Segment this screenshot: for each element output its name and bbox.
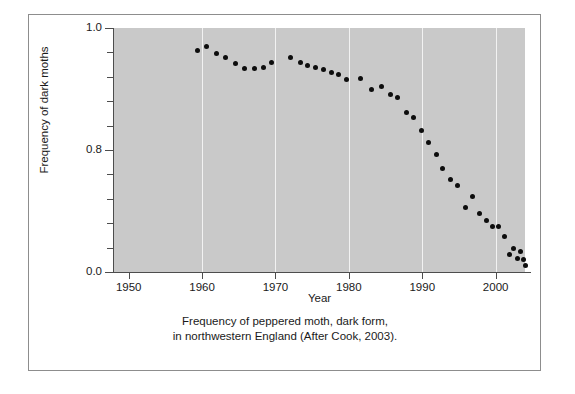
data-point	[484, 218, 489, 223]
data-point	[288, 55, 293, 60]
data-point	[298, 60, 303, 65]
x-tick	[496, 273, 497, 279]
gridline-vertical	[422, 28, 423, 272]
data-point	[261, 65, 266, 70]
x-tick	[202, 273, 203, 279]
data-point	[336, 72, 341, 77]
y-tick-minor	[107, 248, 114, 249]
x-axis-line	[107, 272, 531, 273]
x-tick	[275, 273, 276, 279]
gridline-vertical	[496, 28, 497, 272]
y-tick-minor	[107, 174, 114, 175]
data-point	[440, 166, 445, 171]
x-tick	[422, 273, 423, 279]
data-point	[502, 234, 507, 239]
y-tick-label: 1.0	[68, 21, 102, 33]
y-tick-minor	[107, 77, 114, 78]
y-axis-title: Frequency of dark moths	[38, 20, 50, 200]
data-point	[518, 249, 523, 254]
data-point	[369, 87, 374, 92]
data-point	[269, 60, 274, 65]
y-tick-major	[105, 272, 114, 273]
gridline-vertical	[202, 28, 203, 272]
data-point	[434, 152, 439, 157]
data-point	[204, 44, 209, 49]
data-point	[419, 128, 424, 133]
data-point	[321, 67, 326, 72]
x-axis-title: Year	[114, 292, 525, 304]
data-point	[411, 115, 416, 120]
data-point	[223, 55, 228, 60]
data-point	[496, 224, 501, 229]
data-point	[195, 48, 200, 53]
gridline-vertical	[349, 28, 350, 272]
data-point	[313, 65, 318, 70]
data-point	[242, 66, 247, 71]
data-point	[515, 256, 520, 261]
data-point	[523, 263, 528, 268]
y-tick-major	[105, 28, 114, 29]
figure-caption: Frequency of peppered moth, dark form, i…	[60, 314, 510, 344]
data-point	[507, 252, 512, 257]
data-point	[448, 177, 453, 182]
data-point	[329, 70, 334, 75]
y-tick-label: 0.0	[68, 265, 102, 277]
data-point	[252, 66, 257, 71]
data-point	[426, 140, 431, 145]
y-tick-minor	[107, 126, 114, 127]
data-point	[463, 205, 468, 210]
y-tick-minor	[107, 101, 114, 102]
data-point	[358, 76, 363, 81]
data-point	[214, 51, 219, 56]
caption-line-2: in northwestern England (After Cook, 200…	[60, 329, 510, 344]
data-point	[511, 246, 516, 251]
y-tick-minor	[107, 223, 114, 224]
y-tick-minor	[107, 52, 114, 53]
gridline-vertical	[275, 28, 276, 272]
data-point	[404, 110, 409, 115]
y-tick-label: 0.8	[68, 143, 102, 155]
plot-area	[114, 28, 525, 272]
figure-container: 1950196019701980199020001.00.80.0 Freque…	[0, 0, 575, 394]
data-point	[455, 183, 460, 188]
data-point	[470, 194, 475, 199]
x-tick	[129, 273, 130, 279]
y-tick-major	[105, 150, 114, 151]
data-point	[490, 224, 495, 229]
data-point	[305, 63, 310, 68]
x-tick	[349, 273, 350, 279]
data-point	[477, 211, 482, 216]
data-point	[379, 84, 384, 89]
caption-line-1: Frequency of peppered moth, dark form,	[60, 314, 510, 329]
data-point	[388, 92, 393, 97]
data-point	[395, 95, 400, 100]
data-point	[233, 61, 238, 66]
y-tick-minor	[107, 199, 114, 200]
